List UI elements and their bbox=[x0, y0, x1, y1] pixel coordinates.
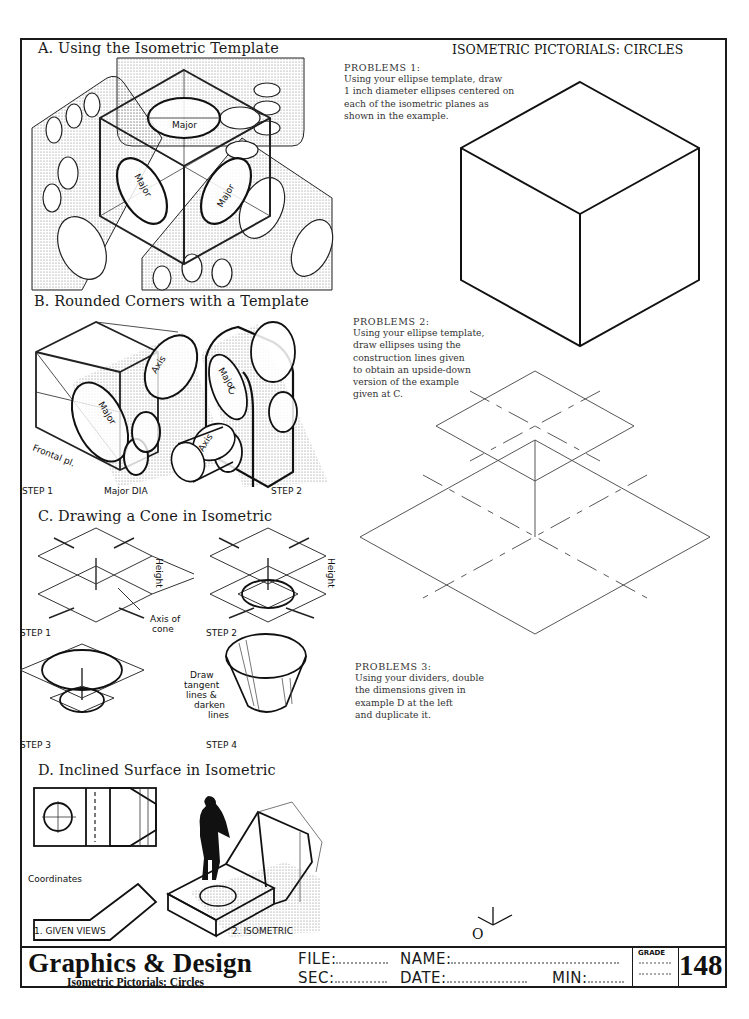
problem-3-line: example D at the left bbox=[355, 697, 555, 709]
label-lines: lines bbox=[208, 710, 229, 720]
title-block: Graphics & Design Isometric Pictorials: … bbox=[20, 946, 727, 988]
section-c-illustration: Height Height Axis of cone STEP 1 STEP 2… bbox=[24, 528, 324, 753]
section-d-illustration: Coordinates 1. GIVEN VIEWS 2. ISOMETRIC bbox=[30, 782, 330, 942]
sec-label: SEC: bbox=[298, 969, 335, 987]
sheet-title: ISOMETRIC PICTORIALS: CIRCLES bbox=[452, 42, 683, 57]
section-a-illustration: Major Major Major bbox=[22, 58, 342, 290]
page-number: 148 bbox=[679, 949, 723, 982]
label-darken: darken bbox=[194, 700, 225, 710]
sec-field[interactable]: SEC: bbox=[298, 969, 387, 987]
label-step-4-c: STEP 4 bbox=[206, 740, 237, 750]
date-label: DATE: bbox=[400, 969, 447, 987]
problem-3-text: Using your dividers, double the dimensio… bbox=[355, 672, 555, 721]
problem-3-line: Using your dividers, double bbox=[355, 672, 555, 684]
problem-3-heading: PROBLEMS 3: bbox=[355, 661, 555, 672]
label-c: C bbox=[228, 386, 234, 396]
axis-symbol-label: O bbox=[472, 926, 483, 942]
file-field[interactable]: FILE: bbox=[298, 950, 388, 968]
label-tangent: tangent bbox=[184, 680, 220, 690]
label-coordinates: Coordinates bbox=[28, 874, 82, 884]
problem-1-cube bbox=[440, 70, 740, 330]
section-a-title: A. Using the Isometric Template bbox=[38, 40, 279, 56]
label-height-1: Height bbox=[154, 558, 164, 588]
min-input[interactable] bbox=[588, 971, 624, 983]
label-step-2-c: STEP 2 bbox=[206, 628, 237, 638]
name-label: NAME: bbox=[400, 950, 451, 968]
problem-2-construction bbox=[350, 360, 720, 640]
section-c-title: C. Drawing a Cone in Isometric bbox=[38, 508, 272, 524]
section-d-title: D. Inclined Surface in Isometric bbox=[38, 762, 276, 778]
section-b-title: B. Rounded Corners with a Template bbox=[34, 293, 309, 309]
label-draw: Draw bbox=[190, 670, 214, 680]
problem-3: PROBLEMS 3: Using your dividers, double … bbox=[355, 661, 555, 721]
grade-dots bbox=[639, 973, 671, 975]
date-field[interactable]: DATE: bbox=[400, 969, 527, 987]
brand-title: Graphics & Design bbox=[28, 948, 252, 979]
problem-3-line: the dimensions given in bbox=[355, 684, 555, 696]
problem-3-line: and duplicate it. bbox=[355, 709, 555, 721]
label-cone: cone bbox=[152, 624, 174, 634]
label-height-2: Height bbox=[326, 558, 336, 588]
label-step-2-b: STEP 2 bbox=[271, 486, 302, 496]
label-axis-of: Axis of bbox=[150, 614, 181, 624]
brand-subtitle: Isometric Pictorials: Circles bbox=[67, 976, 204, 988]
sec-input[interactable] bbox=[335, 971, 387, 983]
label-step-1-c: STEP 1 bbox=[20, 628, 51, 638]
min-field[interactable]: MIN: bbox=[552, 969, 624, 987]
grade-label: GRADE bbox=[638, 949, 665, 957]
label-given-views: 1. GIVEN VIEWS bbox=[34, 926, 106, 936]
grade-input[interactable] bbox=[639, 962, 671, 964]
date-input[interactable] bbox=[447, 971, 527, 983]
label-frontal-plane: Frontal pl. bbox=[31, 443, 76, 469]
axis-symbol: O bbox=[468, 905, 518, 941]
label-step-3-c: STEP 3 bbox=[20, 740, 51, 750]
label-major-top: Major bbox=[172, 120, 197, 130]
label-isometric: 2. ISOMETRIC bbox=[232, 926, 293, 936]
label-major-dia: Major DIA bbox=[104, 486, 148, 496]
section-b-illustration: Axis Major Frontal pl. Axis Major C STEP… bbox=[28, 312, 338, 502]
label-step-1-b: STEP 1 bbox=[22, 486, 53, 496]
name-input[interactable] bbox=[451, 952, 619, 964]
name-field[interactable]: NAME: bbox=[400, 950, 619, 968]
label-lines-amp: lines & bbox=[186, 690, 217, 700]
file-label: FILE: bbox=[298, 950, 336, 968]
problem-2-line: draw ellipses using the bbox=[353, 339, 553, 351]
min-label: MIN: bbox=[552, 969, 588, 987]
file-input[interactable] bbox=[336, 952, 388, 964]
grade-box[interactable]: GRADE bbox=[632, 946, 679, 988]
